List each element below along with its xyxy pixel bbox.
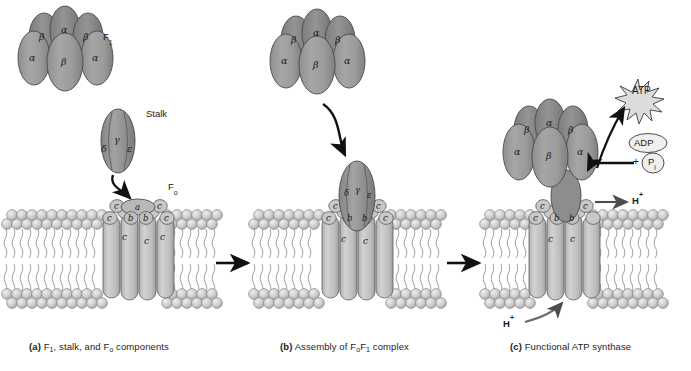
fo-stalk-panel-b: [322, 161, 393, 300]
label-c-c-2: c: [583, 201, 588, 211]
label-a-subunit-b-right: b: [143, 213, 148, 223]
label-b-c-3: c: [326, 213, 331, 223]
label-a-delta: δ: [101, 143, 107, 154]
caption-panel-a: (a) F1, stalk, and Fo components: [29, 341, 169, 352]
label-a-alpha-back-top: α: [61, 24, 67, 35]
label-b-c-1: c: [333, 201, 338, 211]
label-b-beta-front-center: β: [313, 59, 319, 70]
label-adp: ADP: [634, 137, 654, 148]
label-f1-panel-a: F1: [103, 31, 113, 44]
label-a-c-2: c: [157, 201, 162, 211]
label-a-beta-back-right: β: [83, 31, 89, 42]
label-b-c-4: c: [383, 213, 388, 223]
label-a-alpha-front-left: α: [29, 52, 35, 63]
label-b-beta-back-left: β: [291, 34, 297, 45]
label-a-c-1: c: [114, 201, 119, 211]
caption-panel-b: (b) Assembly of FoF1 complex: [280, 341, 409, 352]
label-b-c-6: c: [363, 236, 368, 246]
label-c-subunit-b-right: b: [569, 213, 574, 223]
label-a-alpha-front-right: α: [92, 52, 98, 63]
f1-complex-panel-a: [18, 6, 113, 91]
label-b-alpha-front-right: α: [344, 55, 350, 66]
label-c-c-4: c: [548, 234, 553, 244]
label-a-c-3: c: [107, 213, 112, 223]
label-b-alpha-back-top: α: [313, 27, 319, 38]
label-proton-in: H+: [503, 317, 514, 329]
label-b-gamma: γ: [355, 185, 360, 195]
label-c-c-3: c: [533, 213, 538, 223]
label-b-c-2: c: [376, 201, 381, 211]
f1-complex-panel-b: [270, 9, 365, 94]
label-b-alpha-front-left: α: [281, 55, 287, 66]
label-c-beta-front-center: β: [546, 150, 552, 161]
label-a-c-4: c: [164, 213, 169, 223]
arrow-atp-out: [597, 108, 624, 168]
label-a-c-7: c: [160, 232, 165, 242]
label-b-subunit-b-left: b: [347, 213, 352, 223]
label-b-subunit-b-right: b: [362, 213, 367, 223]
figure-canvas: β α β α β α F1 γ δ ε Stalk Fo a b b c c …: [0, 0, 691, 371]
label-a-beta-back-left: β: [39, 31, 45, 42]
label-c-beta-back-left: β: [524, 124, 530, 135]
label-c-c-5: c: [570, 234, 575, 244]
label-stalk: Stalk: [146, 108, 167, 119]
label-c-alpha-front-left: α: [514, 146, 520, 157]
label-c-alpha-back-top: α: [546, 117, 552, 128]
label-a-gamma: γ: [114, 134, 120, 145]
label-c-beta-back-right: β: [568, 124, 574, 135]
label-a-subunit-b-left: b: [128, 213, 133, 223]
label-proton-out: H+: [632, 194, 643, 206]
label-a-epsilon: ε: [127, 143, 132, 154]
label-a-c-5: c: [122, 232, 127, 242]
label-b-c-5: c: [341, 234, 346, 244]
label-a-beta-front-center: β: [61, 56, 67, 67]
label-c-c-1: c: [540, 201, 545, 211]
label-atp: ATP: [632, 85, 651, 96]
arrow-f1-to-fo: [323, 104, 345, 155]
label-plus: +: [633, 156, 639, 167]
label-b-epsilon: ε: [367, 190, 372, 200]
label-b-delta: δ: [344, 188, 349, 198]
label-c-subunit-b-left: b: [554, 213, 559, 223]
label-a-c-6: c: [144, 236, 149, 246]
label-b-beta-back-right: β: [335, 34, 341, 45]
label-a-subunit-a: a: [135, 202, 140, 212]
label-c-alpha-front-right: α: [577, 146, 583, 157]
label-pi: Pi: [648, 156, 656, 169]
arrow-stalk-to-fo: [112, 175, 130, 198]
label-fo-panel-a: Fo: [168, 181, 178, 194]
caption-panel-c: (c) Functional ATP synthase: [510, 341, 631, 352]
